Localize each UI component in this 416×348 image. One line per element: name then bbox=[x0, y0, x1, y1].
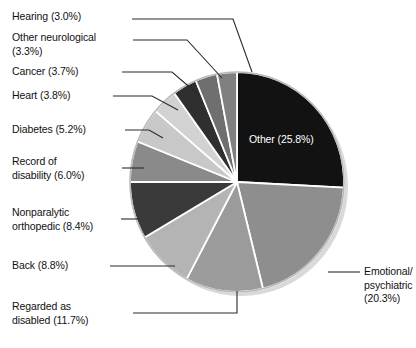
pie-slices bbox=[130, 72, 344, 292]
label-other-neurological: Other neurological (3.3%) bbox=[12, 31, 134, 58]
label-record-of-disability: Record of disability (6.0%) bbox=[12, 155, 122, 182]
pie-chart: Hearing (3.0%) Other neurological (3.3%)… bbox=[0, 0, 416, 348]
label-cancer: Cancer (3.7%) bbox=[12, 65, 127, 79]
label-regarded-as-disabled: Regarded as disabled (11.7%) bbox=[12, 300, 137, 327]
label-diabetes: Diabetes (5.2%) bbox=[12, 123, 127, 137]
label-hearing: Hearing (3.0%) bbox=[12, 10, 130, 24]
leader-regarded-as-disabled bbox=[133, 291, 237, 313]
label-emotional-psychiatric: Emotional/ psychiatric (20.3%) bbox=[364, 265, 416, 306]
label-nonparalytic-orthopedic: Nonparalytic orthopedic (8.4%) bbox=[12, 206, 127, 233]
label-heart: Heart (3.8%) bbox=[12, 89, 117, 103]
label-other: Other (25.8%) bbox=[249, 133, 314, 145]
pie-slice bbox=[237, 72, 344, 188]
label-back: Back (8.8%) bbox=[12, 259, 112, 273]
